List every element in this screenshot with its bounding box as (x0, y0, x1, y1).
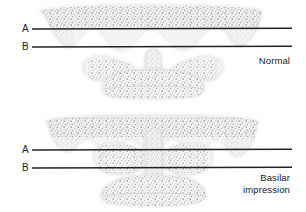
reference-line-a-basilar (32, 149, 292, 150)
axis-vertebral-body-normal (102, 69, 206, 99)
atlas-lateral-mass-left-basilar (93, 143, 146, 175)
caption-line-1: Basilar (260, 172, 290, 183)
anatomy-figure: A B A B Normal Basilarimpression (0, 0, 306, 212)
reference-line-label-b-basilar: B (22, 163, 29, 173)
panel-caption-basilar: Basilarimpression (243, 172, 290, 195)
cancellous-bone-stipple (38, 5, 266, 46)
atlas-lateral-mass-right-basilar (160, 143, 213, 175)
odontoid-process-basilar (144, 129, 164, 182)
reference-line-label-a-basilar: A (22, 145, 29, 155)
reference-line-label-a-normal: A (22, 24, 29, 34)
caption-line-2: impression (243, 184, 290, 195)
reference-line-a-normal (32, 28, 292, 29)
panel-normal (32, 5, 292, 99)
reference-line-b-basilar (32, 167, 292, 168)
reference-line-label-b-normal: B (22, 42, 29, 52)
reference-line-b-normal (32, 46, 292, 47)
panel-caption-normal: Normal (259, 55, 290, 67)
axis-vertebral-body-basilar (101, 175, 208, 206)
